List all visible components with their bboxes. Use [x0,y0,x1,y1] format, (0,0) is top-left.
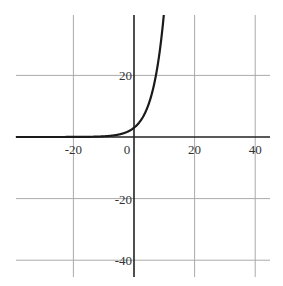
x-tick-label: 20 [188,142,201,157]
x-tick-label: -20 [65,142,82,157]
y-tick-label: -20 [115,192,132,207]
x-tick-label: 0 [124,142,131,157]
function-plot: -200204020-20-40 [0,0,283,286]
axes [16,15,270,277]
exponential-curve [16,15,164,137]
x-tick-label: 40 [249,142,262,157]
grid-lines [16,15,270,277]
tick-labels: -200204020-20-40 [65,68,262,268]
y-tick-label: 20 [119,68,132,83]
y-tick-label: -40 [115,253,132,268]
